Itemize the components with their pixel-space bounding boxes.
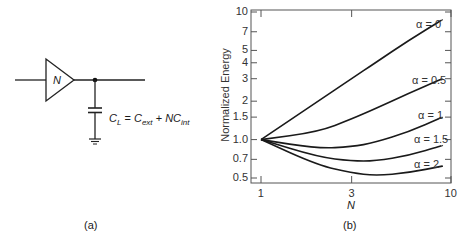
y-tick-label: 3 <box>242 72 248 84</box>
y-tick-label: 0.5 <box>233 171 248 183</box>
x-tick-label: 1 <box>258 187 264 199</box>
x-tick-label: 3 <box>348 187 354 199</box>
caption-b: (b) <box>343 219 356 231</box>
y-tick-label: 1.5 <box>233 110 248 122</box>
series-label: α = 1.5 <box>414 133 448 145</box>
series-label: α = 2 <box>414 158 439 170</box>
y-tick-label: 10 <box>236 5 248 17</box>
series-label: α = 0 <box>416 18 441 30</box>
series-label: α = 1 <box>418 109 443 121</box>
y-tick-label: 0.7 <box>233 152 248 164</box>
series-label: α = 0.5 <box>412 74 446 86</box>
y-tick-label: 5 <box>242 43 248 55</box>
series-line-1 <box>261 79 442 140</box>
y-tick-label: 2 <box>242 94 248 106</box>
x-axis-label: N <box>347 199 355 211</box>
x-tick-label: 10 <box>445 187 457 199</box>
y-tick-label: 4 <box>242 56 248 68</box>
y-tick-label: 1.0 <box>233 133 248 145</box>
y-tick-label: 7 <box>242 25 248 37</box>
